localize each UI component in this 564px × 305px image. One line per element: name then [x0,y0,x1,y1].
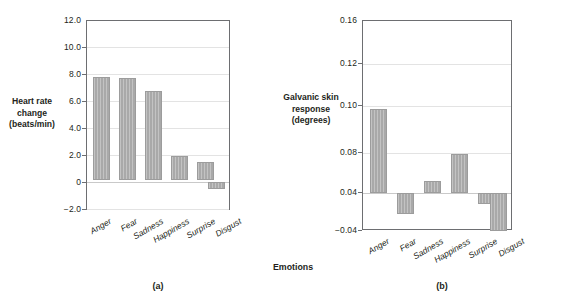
bar-happiness [451,154,468,193]
panel-b: Galvanic skin response (degrees) 0.16 0.… [282,0,564,305]
panel-a-plot-area [86,20,230,210]
y-tick-label: 0.10 [309,100,357,110]
panel-a-bars [87,21,229,209]
y-tick-label: 0.12 [309,58,357,68]
bar-surprise [197,162,214,180]
x-axis-title: Emotions [253,262,333,272]
y-tick-label: 6.0 [33,96,81,106]
y-tick-label: −2.0 [33,204,81,214]
y-tick-label: 10.0 [33,42,81,52]
bar-sadness [145,91,162,180]
panel-b-bars [363,21,511,229]
bar-fear [119,78,136,180]
panel-b-label: (b) [422,281,462,291]
gridline-minus2 [87,209,229,210]
bar-fear [397,193,414,214]
bar-anger [93,77,110,180]
y-tick-label: 2.0 [33,150,81,160]
panel-b-plot-area [362,20,512,230]
y-tick-label: −0.04 [309,225,357,235]
y-tick-mark [358,230,362,231]
y-title-line-3: (degrees) [280,115,342,127]
y-tick-label: 4.0 [33,123,81,133]
y-tick-label: 8.0 [33,69,81,79]
bar-anger [370,109,387,193]
y-tick-label: 12.0 [33,15,81,25]
bar-disgust [208,182,225,189]
y-tick-label: 0.04 [309,187,357,197]
y-tick-label: 0.08 [309,147,357,157]
panel-a: Heart rate change (beats/min) 12.0 10.0 … [0,0,282,305]
panel-a-label: (a) [138,281,178,291]
figure-emotions-physiology: Heart rate change (beats/min) 12.0 10.0 … [0,0,564,305]
y-title-line-2: change [2,108,62,120]
bar-sadness [424,181,441,193]
bar-happiness [171,156,188,180]
y-tick-label: 0.16 [309,15,357,25]
y-tick-label: 0 [33,177,81,187]
bar-disgust [490,193,507,231]
